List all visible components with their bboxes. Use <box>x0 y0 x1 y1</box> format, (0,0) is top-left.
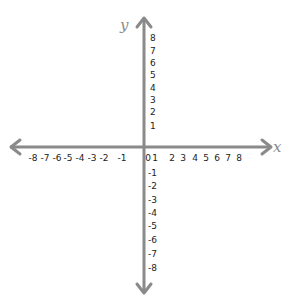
y-tick-label: -6 <box>148 235 157 245</box>
y-axis-name: y <box>119 16 129 34</box>
y-tick-label: -4 <box>148 208 157 218</box>
coordinate-plane: x y -8-7-6-5-4-3-2-1012345678 87654321-1… <box>0 0 293 306</box>
x-tick-label: -3 <box>88 153 97 163</box>
y-tick-label: 6 <box>150 58 156 68</box>
y-tick-label: 5 <box>150 70 156 80</box>
x-tick-label: 7 <box>225 153 231 163</box>
y-tick-label: 2 <box>150 107 156 117</box>
x-tick-label: 0 <box>145 153 151 163</box>
x-tick-label: 5 <box>203 153 209 163</box>
x-tick-label: -4 <box>76 153 85 163</box>
x-tick-label: -7 <box>41 153 50 163</box>
x-tick-label: 6 <box>214 153 220 163</box>
x-tick-label: 8 <box>236 153 242 163</box>
x-tick-label: -1 <box>118 153 127 163</box>
y-tick-label: -3 <box>148 195 157 205</box>
x-axis-name: x <box>273 138 282 156</box>
x-tick-label: 3 <box>180 153 186 163</box>
x-tick-label: -6 <box>53 153 62 163</box>
x-tick-label: -5 <box>64 153 73 163</box>
x-tick-label: 2 <box>169 153 175 163</box>
x-tick-label: 1 <box>152 153 158 163</box>
y-tick-label: -2 <box>148 181 157 191</box>
y-tick-label: -5 <box>148 221 157 231</box>
y-tick-label: 3 <box>150 95 156 105</box>
x-tick-label: -2 <box>100 153 109 163</box>
x-tick-labels: -8-7-6-5-4-3-2-1012345678 <box>29 153 243 163</box>
y-tick-label: 8 <box>150 33 156 43</box>
y-tick-label: 7 <box>150 46 156 56</box>
y-tick-label: -1 <box>148 168 157 178</box>
y-tick-label: -7 <box>148 249 157 259</box>
x-tick-label: -8 <box>29 153 38 163</box>
y-tick-label: 4 <box>150 83 156 93</box>
x-tick-label: 4 <box>192 153 198 163</box>
y-tick-label: 1 <box>150 121 156 131</box>
y-tick-label: -8 <box>148 263 157 273</box>
